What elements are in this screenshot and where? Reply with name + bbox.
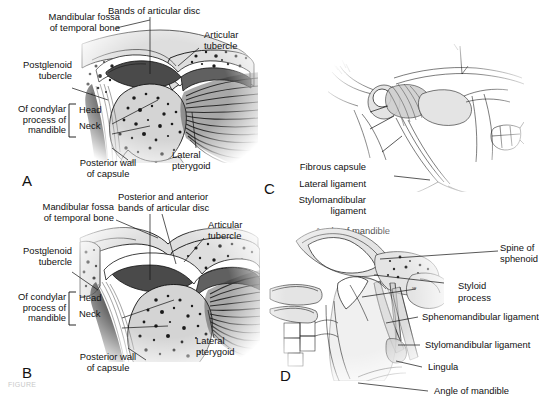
- label-lateral-pterygoid-a: Lateral pterygoid: [172, 150, 211, 171]
- label-postglenoid-tubercle-a: Postglenoid tubercle: [0, 60, 72, 81]
- label-mandibular-fossa-b: Mandibular fossa of temporal bone: [6, 202, 114, 223]
- panel-c-illustration: [262, 40, 524, 200]
- label-head-a: Head: [79, 105, 101, 116]
- panel-c: Fibrous capsule Lateral ligament Styloma…: [262, 40, 524, 200]
- label-styloid-process-line1-d: Styloid: [458, 281, 486, 292]
- panel-d: sp: [262, 205, 524, 393]
- bracket-condylar-b: [68, 291, 77, 327]
- label-posterior-wall-a: Posterior wall of capsule: [60, 158, 156, 179]
- bracket-condylar-a: [68, 103, 77, 139]
- label-of-condylar-process-a: Of condylar process of mandible: [0, 104, 66, 136]
- label-posterior-wall-b: Posterior wall of capsule: [60, 352, 156, 373]
- label-stylomandibular-ligament-d: Stylomandibular ligament: [425, 340, 530, 351]
- label-styloid-process-line2-d: process: [458, 293, 491, 304]
- label-sphenomandibular-ligament-d: Sphenomandibular ligament: [422, 312, 539, 323]
- label-bands-of-disc-b: Posterior and anterior bands of articula…: [118, 192, 209, 213]
- label-lateral-ligament-c: Lateral ligament: [262, 179, 366, 190]
- label-neck-a: Neck: [79, 121, 100, 132]
- panel-letter-a: A: [22, 172, 32, 189]
- figure-caption: FIGURE: [8, 381, 36, 388]
- label-head-b: Head: [79, 293, 101, 304]
- label-lingula-d: Lingula: [428, 362, 458, 373]
- label-fibrous-capsule-c: Fibrous capsule: [262, 162, 366, 173]
- label-of-condylar-process-b: Of condylar process of mandible: [0, 292, 66, 324]
- label-angle-of-mandible-d: Angle of mandible: [434, 386, 509, 397]
- label-articular-tubercle-a: Articular tubercle: [204, 30, 238, 51]
- panel-letter-c: C: [264, 180, 275, 197]
- panel-letter-b: B: [22, 364, 32, 381]
- label-neck-b: Neck: [79, 309, 100, 320]
- label-mandibular-fossa-a: Mandibular fossa of temporal bone: [12, 12, 120, 33]
- panel-a: Mandibular fossa of temporal bone Bands …: [0, 0, 262, 190]
- label-lateral-pterygoid-b: Lateral pterygoid: [196, 336, 235, 357]
- panel-b: Mandibular fossa of temporal bone Poster…: [0, 190, 262, 393]
- panel-letter-d: D: [280, 367, 291, 384]
- label-bands-of-disc-a: Bands of articular disc: [108, 6, 200, 17]
- label-spine-of-sphenoid-d: Spine of sphenoid: [500, 243, 538, 264]
- label-articular-tubercle-b: Articular tubercle: [208, 220, 242, 241]
- label-postglenoid-tubercle-b: Postglenoid tubercle: [0, 246, 72, 267]
